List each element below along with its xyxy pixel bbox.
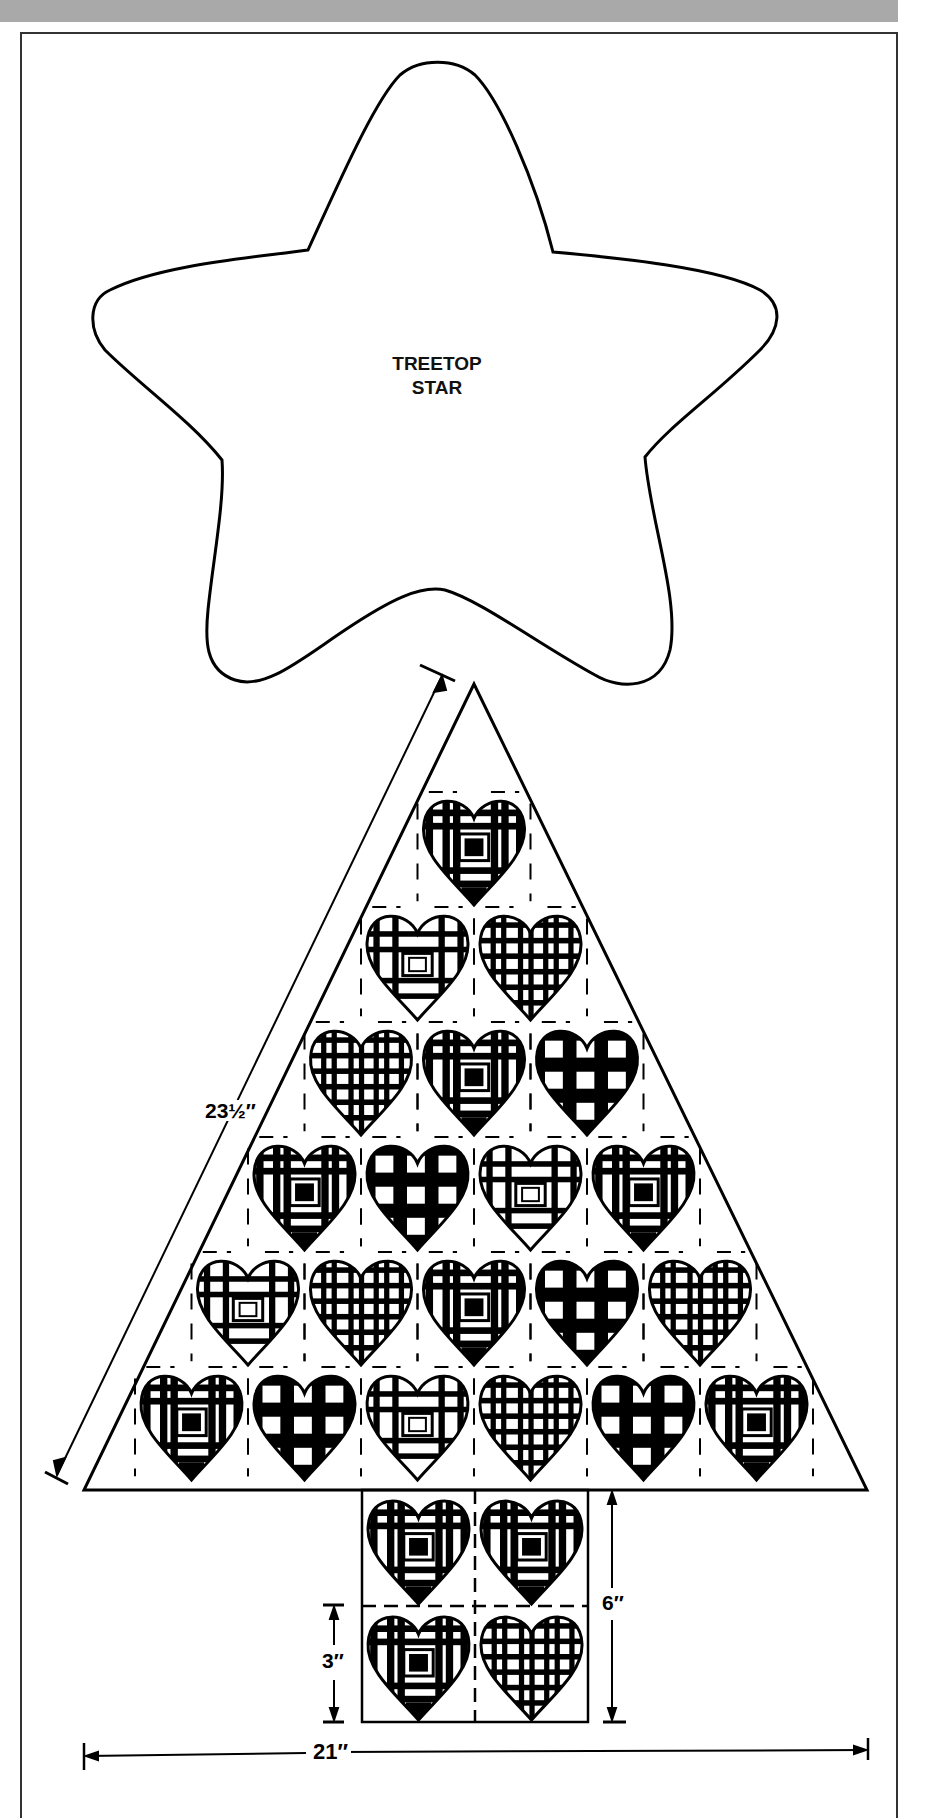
heart-appliqué [365, 1139, 470, 1250]
heart-appliqué [365, 1369, 470, 1480]
star-label-line2: STAR [370, 376, 504, 400]
trunk-heart-appliqué [366, 1610, 471, 1720]
heart-appliqué [196, 1254, 301, 1365]
heart-appliqué [252, 1369, 357, 1480]
diagonal-dimension-label: 23½″ [203, 1100, 258, 1121]
heart-appliqué [309, 1024, 414, 1135]
trunk-height-label: 6″ [600, 1592, 626, 1613]
heart-appliqué [309, 1254, 414, 1365]
heart-appliqué [704, 1369, 809, 1480]
pattern-illustration [0, 0, 926, 1818]
heart-appliqué [591, 1369, 696, 1480]
heart-appliqué [478, 909, 583, 1020]
heart-appliqué [535, 1254, 640, 1365]
trunk-heart-appliqué [479, 1610, 584, 1720]
heart-appliqué [422, 1024, 527, 1135]
width-dimension [84, 1738, 868, 1770]
star-label-line1: TREETOP [370, 352, 504, 376]
trunk-heart-appliqué [479, 1494, 584, 1604]
heart-appliqué [478, 1139, 583, 1250]
heart-appliqué [252, 1139, 357, 1250]
heart-appliqué [139, 1369, 244, 1480]
trunk-heart-appliqué [366, 1494, 471, 1604]
width-dimension-label: 21″ [310, 1741, 351, 1763]
heart-appliqué [422, 794, 527, 905]
heart-appliqué [535, 1024, 640, 1135]
treetop-star-label: TREETOP STAR [370, 352, 504, 400]
heart-appliqué [478, 1369, 583, 1480]
heart-appliqué [365, 909, 470, 1020]
heart-height-label: 3″ [320, 1650, 346, 1671]
heart-appliqué [591, 1139, 696, 1250]
heart-appliqué [422, 1254, 527, 1365]
heart-appliqué [648, 1254, 753, 1365]
